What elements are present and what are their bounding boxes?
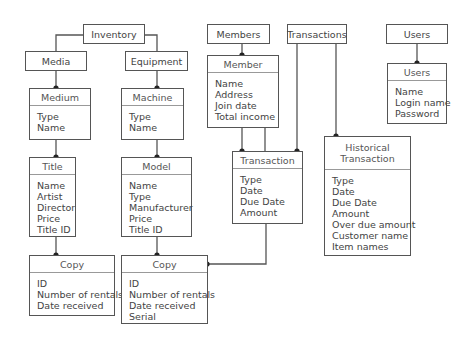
attribute-list: Name Login name Password — [388, 81, 446, 119]
attribute-list: Type Name — [122, 106, 183, 133]
entity-medium: Medium Type Name — [29, 88, 91, 140]
attribute: Name — [37, 180, 75, 191]
attribute: Director — [37, 202, 75, 213]
attribute: Price — [129, 213, 191, 224]
attribute-list: Name Type Manufacturer Price Title ID — [122, 175, 191, 235]
group-equipment: Equipment — [125, 51, 188, 71]
attribute: Price — [37, 213, 75, 224]
entity-title-line: Historical — [327, 142, 408, 153]
attribute: Name — [215, 78, 278, 89]
attribute: Item names — [332, 241, 410, 252]
attribute: Serial — [129, 311, 207, 322]
group-members: Members — [207, 24, 270, 44]
attribute: ID — [129, 278, 207, 289]
attribute: ID — [37, 278, 114, 289]
attribute: Amount — [240, 207, 302, 218]
group-users: Users — [386, 24, 448, 44]
attribute: Number of rentals — [129, 289, 207, 300]
attribute: Type — [129, 111, 183, 122]
attribute-list: ID Number of rentals Date received Seria… — [122, 273, 207, 322]
attribute-list: Type Date Due Date Amount Over due amoun… — [325, 170, 410, 252]
attribute: Type — [240, 174, 302, 185]
attribute-list: Name Artist Director Price Title ID — [30, 175, 75, 235]
attribute: Type — [37, 111, 90, 122]
attribute: Due Date — [240, 196, 302, 207]
attribute: Due Date — [332, 197, 410, 208]
entity-title: Transaction — [233, 152, 302, 169]
attribute-list: ID Number of rentals Date received — [30, 273, 114, 311]
attribute-list: Type Date Due Date Amount — [233, 169, 302, 218]
attribute: Date received — [129, 300, 207, 311]
entity-title: Title Name Artist Director Price Title I… — [29, 157, 76, 237]
attribute: Type — [129, 191, 191, 202]
attribute-list: Name Address Join date Total income — [208, 73, 278, 122]
entity-title: Machine — [122, 89, 183, 106]
entity-title: Users — [388, 64, 446, 81]
attribute-list: Type Name — [30, 106, 90, 133]
attribute: Over due amount — [332, 219, 410, 230]
attribute: Login name — [395, 97, 446, 108]
attribute: Title ID — [37, 224, 75, 235]
entity-title: Model — [122, 158, 191, 175]
attribute: Customer name — [332, 230, 410, 241]
entity-title-line: Transaction — [327, 153, 408, 164]
group-media: Media — [25, 51, 87, 71]
attribute: Date received — [37, 300, 114, 311]
attribute: Name — [129, 122, 183, 133]
entity-historical-transaction: Historical Transaction Type Date Due Dat… — [324, 136, 411, 256]
attribute: Total income — [215, 111, 278, 122]
entity-transaction: Transaction Type Date Due Date Amount — [232, 151, 303, 224]
entity-title: Copy — [122, 256, 207, 273]
attribute: Type — [332, 175, 410, 186]
entity-title: Copy — [30, 256, 114, 273]
attribute: Password — [395, 108, 446, 119]
entity-member: Member Name Address Join date Total inco… — [207, 55, 279, 128]
attribute: Number of rentals — [37, 289, 114, 300]
entity-title: Member — [208, 56, 278, 73]
entity-copy-media: Copy ID Number of rentals Date received — [29, 255, 115, 316]
attribute: Date — [240, 185, 302, 196]
entity-title-label: Title — [30, 158, 75, 175]
attribute: Artist — [37, 191, 75, 202]
entity-users: Users Name Login name Password — [387, 63, 447, 124]
attribute: Amount — [332, 208, 410, 219]
attribute: Name — [37, 122, 90, 133]
entity-model: Model Name Type Manufacturer Price Title… — [121, 157, 192, 237]
group-transactions: Transactions — [287, 24, 347, 44]
attribute: Join date — [215, 100, 278, 111]
group-inventory: Inventory — [83, 24, 145, 44]
entity-title: Historical Transaction — [325, 137, 410, 170]
attribute: Name — [129, 180, 191, 191]
attribute: Title ID — [129, 224, 191, 235]
attribute: Manufacturer — [129, 202, 191, 213]
entity-title: Medium — [30, 89, 90, 106]
attribute: Name — [395, 86, 446, 97]
attribute: Date — [332, 186, 410, 197]
entity-machine: Machine Type Name — [121, 88, 184, 140]
entity-copy-equipment: Copy ID Number of rentals Date received … — [121, 255, 208, 324]
attribute: Address — [215, 89, 278, 100]
